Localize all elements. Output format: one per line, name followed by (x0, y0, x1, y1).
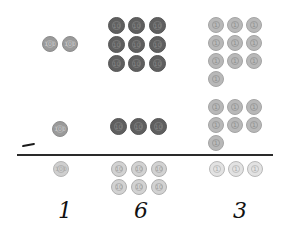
one-coin: 1 (227, 35, 243, 51)
coin-mark-icon: 10 (153, 59, 161, 67)
one-coin: 1 (227, 17, 243, 33)
coin-mark-icon: 1 (213, 165, 221, 173)
coin-mark-icon: 1 (212, 21, 220, 29)
answer-one-coin: 1 (228, 161, 244, 177)
coin-mark-icon: 10 (153, 21, 161, 29)
coin-mark-icon: 1 (212, 139, 220, 147)
coin-mark-icon: 10 (112, 21, 120, 29)
one-coin: 1 (246, 35, 262, 51)
coin-mark-icon: 100 (57, 165, 65, 173)
coin-mark-icon: 1 (232, 165, 240, 173)
coin-mark-icon: 10 (115, 165, 123, 173)
coin-mark-icon: 10 (135, 183, 143, 191)
coin-mark-icon: 10 (155, 165, 163, 173)
answer-one-coin: 1 (247, 161, 263, 177)
answer-digit-tens: 6 (134, 200, 148, 222)
coin-mark-icon: 1 (231, 39, 239, 47)
coin-mark-icon: 1 (231, 57, 239, 65)
coin-mark-icon: 1 (251, 165, 259, 173)
coin-mark-icon: 1 (212, 75, 220, 83)
one-coin: 1 (227, 53, 243, 69)
ten-coin: 10 (149, 17, 166, 34)
coin-mark-icon: 1 (212, 121, 220, 129)
one-coin: 1 (208, 117, 224, 133)
coin-mark-icon: 1 (231, 103, 239, 111)
coin-mark-icon: 10 (132, 21, 140, 29)
coin-mark-icon: 1 (212, 103, 220, 111)
coin-mark-icon: 100 (56, 125, 64, 133)
coin-mark-icon: 1 (250, 103, 258, 111)
ten-coin: 10 (108, 36, 125, 53)
coin-mark-icon: 10 (134, 122, 142, 130)
coin-mark-icon: 10 (155, 183, 163, 191)
one-coin: 1 (208, 35, 224, 51)
answer-ten-coin: 10 (151, 179, 167, 195)
coin-mark-icon: 10 (153, 40, 161, 48)
answer-ten-coin: 10 (131, 161, 147, 177)
answer-ten-coin: 10 (151, 161, 167, 177)
ten-coin: 10 (128, 17, 145, 34)
one-coin: 1 (246, 99, 262, 115)
one-coin: 1 (227, 117, 243, 133)
ten-coin: 10 (110, 118, 127, 135)
ten-coin: 10 (128, 36, 145, 53)
one-coin: 1 (208, 135, 224, 151)
ten-coin: 10 (130, 118, 147, 135)
answer-digit-hundreds: 1 (58, 200, 72, 222)
hundred-coin: 100 (42, 36, 58, 52)
coin-mark-icon: 10 (112, 59, 120, 67)
ten-coin: 10 (150, 118, 167, 135)
hundred-coin: 100 (62, 36, 78, 52)
answer-ten-coin: 10 (131, 179, 147, 195)
ten-coin: 10 (149, 55, 166, 72)
coin-mark-icon: 10 (132, 40, 140, 48)
coin-mark-icon: 10 (114, 122, 122, 130)
hundred-coin: 100 (52, 121, 68, 137)
one-coin: 1 (246, 17, 262, 33)
answer-hundred-coin: 100 (53, 161, 69, 177)
coin-mark-icon: 10 (132, 59, 140, 67)
answer-digit-ones: 3 (233, 200, 247, 222)
coin-mark-icon: 10 (154, 122, 162, 130)
one-coin: 1 (208, 53, 224, 69)
ten-coin: 10 (108, 55, 125, 72)
one-coin: 1 (208, 17, 224, 33)
coin-mark-icon: 100 (66, 40, 74, 48)
one-coin: 1 (246, 117, 262, 133)
coin-mark-icon: 10 (112, 40, 120, 48)
ten-coin: 10 (108, 17, 125, 34)
coin-mark-icon: 1 (212, 57, 220, 65)
ten-coin: 10 (128, 55, 145, 72)
one-coin: 1 (208, 71, 224, 87)
coin-mark-icon: 1 (212, 39, 220, 47)
coin-mark-icon: 1 (250, 39, 258, 47)
coin-mark-icon: 10 (135, 165, 143, 173)
answer-ten-coin: 10 (111, 179, 127, 195)
one-coin: 1 (246, 53, 262, 69)
coin-mark-icon: 1 (231, 121, 239, 129)
coin-mark-icon: 10 (115, 183, 123, 191)
one-coin: 1 (208, 99, 224, 115)
coin-mark-icon: 1 (250, 57, 258, 65)
coin-mark-icon: 100 (46, 40, 54, 48)
answer-ten-coin: 10 (111, 161, 127, 177)
minus-sign (22, 143, 35, 147)
one-coin: 1 (227, 99, 243, 115)
ten-coin: 10 (149, 36, 166, 53)
result-line (17, 154, 273, 156)
coin-mark-icon: 1 (250, 21, 258, 29)
answer-one-coin: 1 (209, 161, 225, 177)
coin-mark-icon: 1 (250, 121, 258, 129)
coin-mark-icon: 1 (231, 21, 239, 29)
